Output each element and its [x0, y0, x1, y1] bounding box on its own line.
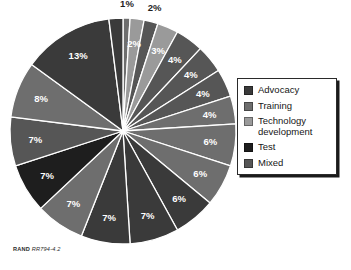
pie-slice-label: 3%: [151, 45, 165, 56]
legend-item-advocacy[interactable]: Advocacy: [244, 85, 331, 96]
pie-slice-label: 7%: [141, 210, 155, 221]
legend-label-test: Test: [258, 142, 275, 153]
pie-slice-label: 4%: [184, 69, 198, 80]
pie-slice-label: 7%: [28, 134, 42, 145]
source-note-prefix: RAND: [13, 246, 30, 252]
pie-slice-label: 4%: [168, 54, 182, 65]
source-note: RAND RR794-4.2: [13, 246, 61, 252]
pie-slice-label: 1%: [120, 0, 134, 9]
legend-item-training[interactable]: Training: [244, 101, 331, 112]
legend-swatch-training: [244, 102, 253, 111]
chart-legend: Advocacy Training Technology development…: [237, 78, 337, 175]
pie-slice-label: 7%: [67, 198, 81, 209]
pie-slice-group: [10, 18, 236, 244]
legend-swatch-technology-development: [244, 117, 253, 126]
legend-item-mixed[interactable]: Mixed: [244, 158, 331, 169]
legend-label-technology-development: Technology development: [258, 116, 312, 137]
legend-label-advocacy: Advocacy: [258, 85, 299, 96]
legend-swatch-advocacy: [244, 86, 253, 95]
pie-slice-label: 7%: [102, 212, 116, 223]
pie-slice-label: 13%: [69, 50, 89, 61]
legend-label-training: Training: [258, 101, 292, 112]
source-note-id: RR794-4.2: [32, 246, 61, 252]
legend-swatch-mixed: [244, 159, 253, 168]
legend-swatch-test: [244, 143, 253, 152]
pie-slice-label: 2%: [148, 2, 162, 13]
pie-slice-label: 4%: [203, 109, 217, 120]
pie-chart-figure: 1%2%2%3%4%4%4%4%6%6%6%7%7%7%7%7%8%13% Ad…: [0, 0, 351, 270]
pie-slice-label: 6%: [204, 136, 218, 147]
pie-slice-label: 2%: [127, 38, 141, 49]
pie-slice-label: 6%: [172, 193, 186, 204]
legend-item-test[interactable]: Test: [244, 142, 331, 153]
legend-label-mixed: Mixed: [258, 158, 283, 169]
legend-item-technology-development[interactable]: Technology development: [244, 116, 331, 137]
pie-slice-label: 6%: [193, 168, 207, 179]
pie-slice-label: 7%: [40, 170, 54, 181]
pie-slice-label: 4%: [196, 88, 210, 99]
pie-slice-label: 8%: [34, 93, 48, 104]
